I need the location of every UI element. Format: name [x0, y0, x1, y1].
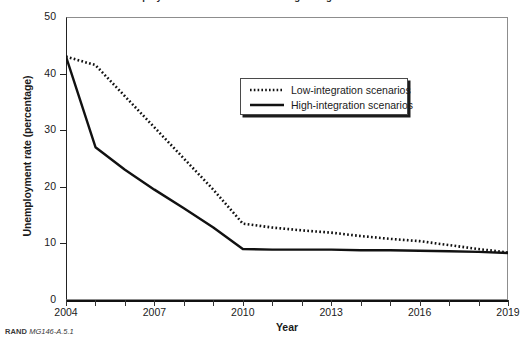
x-tick-mark	[125, 300, 126, 306]
dotted-line-key	[247, 86, 287, 94]
x-tick-mark	[479, 300, 480, 306]
x-tick-label: 2007	[131, 306, 177, 318]
y-tick-label: 50	[22, 10, 56, 22]
x-axis-line	[66, 300, 508, 302]
y-tick-mark	[60, 187, 67, 188]
x-tick-label: 2004	[43, 306, 89, 318]
x-tick-mark	[449, 300, 450, 306]
y-tick-label: 20	[22, 180, 56, 192]
chart-title: Unemployment Rate Under Low- and High-In…	[0, 0, 522, 3]
source-org: RAND	[5, 327, 27, 336]
y-tick-label: 30	[22, 123, 56, 135]
x-tick-mark	[95, 300, 96, 306]
solid-line-key	[247, 101, 287, 109]
y-tick-label: 0	[22, 293, 56, 305]
x-tick-mark	[390, 300, 391, 306]
legend-item-high-integration: High-integration scenarios	[247, 97, 401, 112]
y-tick-mark	[60, 243, 67, 244]
plot-lines	[66, 17, 508, 300]
x-tick-mark	[213, 300, 214, 306]
chart-figure: Unemployment Rate Under Low- and High-In…	[0, 0, 522, 342]
x-tick-label: 2010	[220, 306, 266, 318]
y-tick-label: 10	[22, 236, 56, 248]
legend-item-low-integration: Low-integration scenarios	[247, 82, 401, 97]
y-tick-mark	[60, 130, 67, 131]
legend-label-high-integration: High-integration scenarios	[287, 99, 413, 111]
figure-source-note: RAND MG146-A.5.1	[5, 327, 74, 336]
x-tick-mark	[302, 300, 303, 306]
source-figure-id: MG146-A.5.1	[29, 327, 74, 336]
x-tick-mark	[272, 300, 273, 306]
x-tick-mark	[361, 300, 362, 306]
x-axis-title: Year	[66, 321, 508, 333]
y-axis-title: Unemployment rate (percentage)	[21, 46, 33, 266]
y-tick-mark	[60, 74, 67, 75]
y-tick-label: 40	[22, 67, 56, 79]
x-tick-label: 2019	[485, 306, 522, 318]
chart-legend: Low-integration scenarios High-integrati…	[240, 78, 408, 115]
x-tick-label: 2013	[308, 306, 354, 318]
x-tick-label: 2016	[397, 306, 443, 318]
x-tick-mark	[184, 300, 185, 306]
legend-label-low-integration: Low-integration scenarios	[287, 84, 411, 96]
